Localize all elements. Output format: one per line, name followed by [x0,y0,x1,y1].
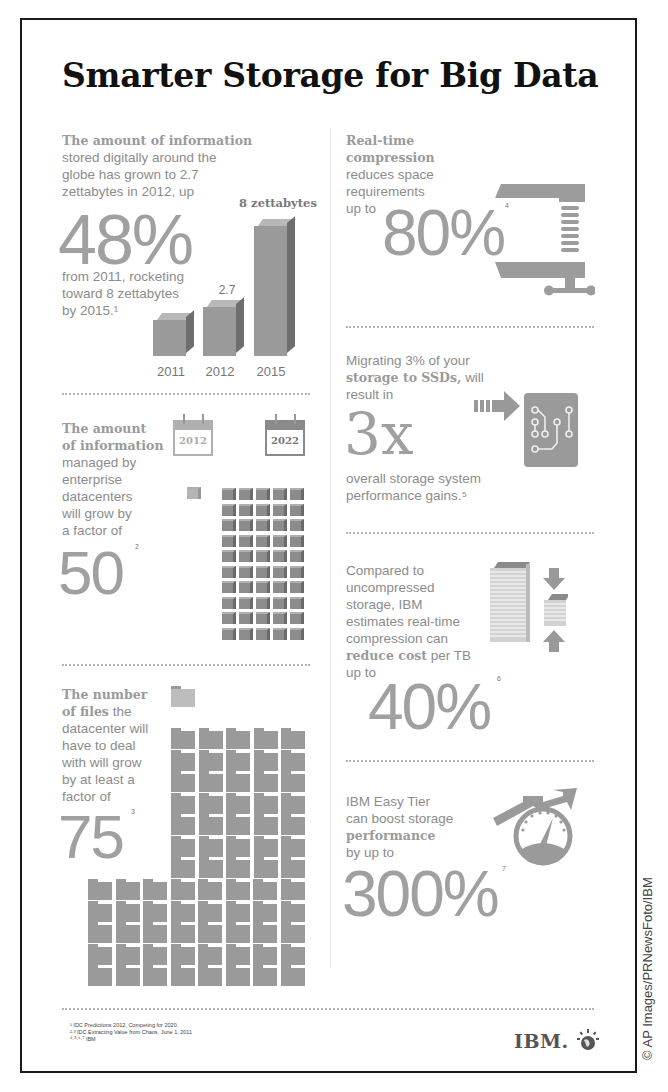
digital-info-tail-line: from 2011, rocketing [62,268,184,285]
files-line: datacenter will [62,720,148,737]
cube-icon [239,488,253,500]
cost-line: Compared to [346,562,471,579]
files-line: by at least a [62,771,148,788]
page-title: Smarter Storage for Big Data [62,56,598,95]
divider [346,326,594,328]
cube-icon [273,519,287,531]
bar-2011 [153,320,186,356]
cube-icon [273,488,287,500]
compression-line: reduces space [346,166,435,183]
cost-line: compression can [346,630,471,647]
calendar-year: 2012 [175,435,211,446]
folder-icon [199,774,223,792]
cube-icon [256,581,270,593]
stat-50: 50 [58,542,123,604]
folder-icon [226,753,250,771]
cube-icon [290,519,304,531]
folder-icon [88,904,112,922]
cube-icon [290,550,304,562]
folder-icon [199,839,223,857]
folder-icon [88,968,112,986]
easy-tier-bold: performance [346,827,453,844]
cube-icon [273,581,287,593]
folder-icon [171,731,195,749]
folder-icon [116,904,140,922]
cube-icon [222,488,236,500]
cube-icon [239,519,253,531]
datacenter-info-text: The amount of information managed by ent… [62,420,163,539]
digital-info-tail-line: toward 8 zettabytes [62,285,184,302]
digital-info-tail: from 2011, rocketing toward 8 zettabytes… [62,268,184,319]
folder-icon [254,839,278,857]
datacenter-lead-bold: The amount [62,420,163,437]
folder-icon [171,925,195,943]
bar-label-2011: 2011 [151,364,191,379]
folder-icon [171,860,195,878]
cube-icon [290,628,304,640]
smarter-planet-icon [577,1029,599,1053]
cost-line: per TB [431,648,471,663]
folder-icon [253,968,277,986]
cube-icon [222,597,236,609]
digital-info-lead-bold: The amount of information [62,132,252,149]
folder-icon [143,947,167,965]
folder-icon [143,882,167,900]
cost-line: estimates real-time [346,613,471,630]
folder-icon [171,796,195,814]
folder-icon [226,731,250,749]
cube-icon [273,628,287,640]
cube-icon [256,612,270,624]
datacenter-line: managed by [62,454,163,471]
cube-icon [256,488,270,500]
compressed-stack-icon [488,562,568,672]
folder-icon [88,925,112,943]
cube-icon [273,597,287,609]
easy-tier-line: IBM Easy Tier [346,793,453,810]
cube-icon [256,519,270,531]
stat-300-percent: 300% [342,862,498,926]
footnote-mark: 2 [135,543,139,550]
cube-icon [290,488,304,500]
clamp-icon [495,182,595,302]
divider [62,664,310,666]
folder-icon [198,882,222,900]
folder-icon [226,925,250,943]
cost-line: storage, IBM [346,596,471,613]
easy-tier-line: can boost storage [346,810,453,827]
digital-info-line: zettabytes in 2012, up [62,183,252,200]
folder-icon [281,947,305,965]
cube-icon [222,566,236,578]
folder-icon [116,925,140,943]
ssd-chip-icon [524,393,578,467]
stat-75: 75 [58,806,123,868]
folder-icon [143,925,167,943]
digital-info-line: stored digitally around the [62,149,252,166]
digital-info-text: The amount of information stored digital… [62,132,252,200]
cost-bold: reduce cost [346,648,427,663]
digital-info-line: globe has grown to 2.7 [62,166,252,183]
files-lead-bold: of files [62,704,109,719]
folder-icon [198,925,222,943]
cube-icon [290,566,304,578]
datacenter-line: a factor of [62,522,163,539]
folder-icon [171,774,195,792]
folder-icon [171,904,195,922]
bar-label-2012: 2012 [200,364,240,379]
folder-icon [88,882,112,900]
datacenter-line: enterprise [62,471,163,488]
ibm-logo: IBM. [514,1030,569,1052]
compression-lead-bold: compression [346,149,435,166]
folder-icon [143,904,167,922]
folder-icon [199,731,223,749]
divider [62,393,310,395]
folder-icon [143,968,167,986]
folder-icon [226,904,250,922]
cube-icon [256,628,270,640]
cube-icon [273,566,287,578]
folder-icon [226,968,250,986]
datacenter-line: datacenters [62,488,163,505]
bar-value-2012: 2.7 [207,283,247,297]
cost-line: uncompressed [346,579,471,596]
cube-icon [273,612,287,624]
cube-icon [222,550,236,562]
